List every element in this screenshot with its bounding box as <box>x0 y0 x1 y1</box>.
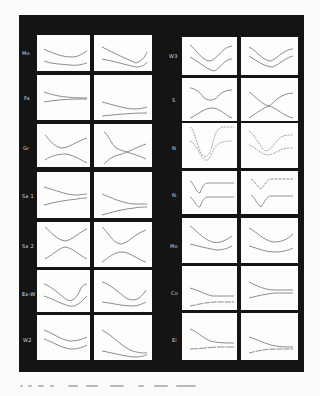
curve-pair-graphic <box>241 171 298 214</box>
curve-panel-s-a <box>182 78 237 121</box>
curve-pair-graphic <box>37 172 90 218</box>
curve-panel-w2-b <box>94 315 152 360</box>
curve-panel-s-b <box>241 78 298 121</box>
curve-pair-graphic <box>94 35 152 71</box>
row-label-n-dot: N. <box>172 192 178 198</box>
curve-pair-graphic <box>241 37 298 75</box>
curve-pair-graphic <box>182 171 237 214</box>
curve-pair-graphic <box>37 315 90 360</box>
curve-panel-n-dot-b <box>241 171 298 214</box>
curve-panel-ex-w-b <box>94 270 152 312</box>
curve-pair-graphic <box>37 222 90 267</box>
curve-panel-w2-a <box>37 315 90 360</box>
curve-panel-n-a <box>182 123 237 168</box>
row-label-w3: W3 <box>169 53 178 59</box>
curve-pair-graphic <box>182 123 237 168</box>
curve-panel-ex-w-a <box>37 270 90 312</box>
curve-panel-gr-a <box>37 124 90 167</box>
curve-panel-ei-b <box>241 313 298 360</box>
row-label-w2: W2 <box>23 337 32 343</box>
curve-panel-w3-b <box>241 37 298 75</box>
curve-panel-co-b <box>241 266 298 310</box>
curve-pair-graphic <box>94 124 152 167</box>
curve-pair-graphic <box>94 270 152 312</box>
row-label-fa: Fa <box>24 95 30 101</box>
row-label-gr: Gr <box>23 145 29 151</box>
curve-panel-n-dot-a <box>182 171 237 214</box>
curve-panel-sa1-b <box>94 172 152 218</box>
curve-pair-graphic <box>241 123 298 168</box>
curve-pair-graphic <box>241 313 298 360</box>
curve-pair-graphic <box>182 218 237 263</box>
curve-pair-graphic <box>241 78 298 121</box>
curve-panel-sa1-a <box>37 172 90 218</box>
curve-panel-w3-a <box>182 37 237 75</box>
curve-pair-graphic <box>94 172 152 218</box>
curve-panel-fa-a <box>37 75 90 120</box>
row-label-ei: Ei <box>172 337 177 343</box>
row-label-s: S <box>172 97 175 103</box>
curve-pair-graphic <box>37 75 90 120</box>
row-label-mo-right: Mo <box>170 243 178 249</box>
curve-pair-graphic <box>37 35 90 71</box>
curve-panel-ei-a <box>182 313 237 360</box>
curve-pair-graphic <box>94 75 152 120</box>
row-label-ex-w: Ex-W <box>21 291 36 297</box>
curve-pair-graphic <box>182 313 237 360</box>
curve-panel-mo-a <box>37 35 90 71</box>
row-label-co: Co <box>171 290 178 296</box>
row-label-mo: Mo <box>22 50 30 56</box>
row-label-sa2: Sa 2 <box>22 243 34 249</box>
curve-pair-graphic <box>37 270 90 312</box>
curve-panel-mo-b <box>94 35 152 71</box>
curve-pair-graphic <box>182 37 237 75</box>
curve-panel-mo-right-b <box>241 218 298 263</box>
curve-pair-graphic <box>94 222 152 267</box>
curve-pair-graphic <box>182 78 237 121</box>
curve-panel-gr-b <box>94 124 152 167</box>
row-label-n: N <box>172 145 176 151</box>
curve-panel-mo-right-a <box>182 218 237 263</box>
curve-pair-graphic <box>241 266 298 310</box>
curve-panel-n-b <box>241 123 298 168</box>
curve-panel-sa2-b <box>94 222 152 267</box>
curve-pair-graphic <box>37 124 90 167</box>
row-label-sa1: Sa 1 <box>22 193 34 199</box>
curve-panel-co-a <box>182 266 237 310</box>
curve-pair-graphic <box>241 218 298 263</box>
caption-illegible <box>20 385 230 388</box>
curve-pair-graphic <box>94 315 152 360</box>
curve-panel-fa-b <box>94 75 152 120</box>
curve-pair-graphic <box>182 266 237 310</box>
curve-panel-sa2-a <box>37 222 90 267</box>
